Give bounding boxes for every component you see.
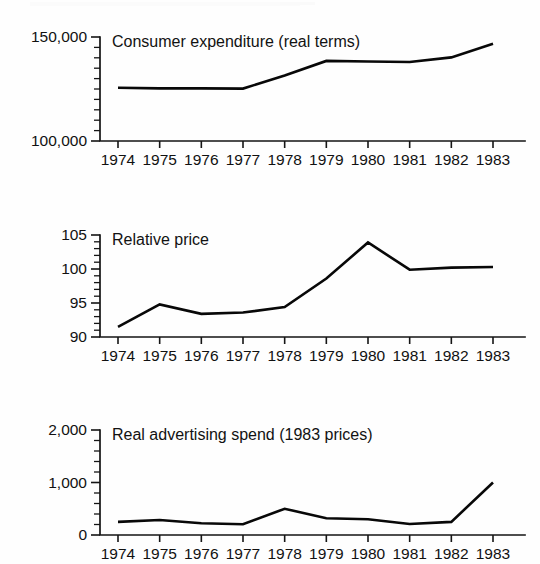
x-axis-tick-label: 1982 [434,347,468,364]
chart-data-line [118,44,493,89]
chart-title: Real advertising spend (1983 prices) [112,426,373,443]
chart-relative-price: 1051009590197419751976197719781979198019… [0,195,540,375]
x-axis-tick-label: 1979 [309,545,343,562]
y-axis-tick-label: 100 [61,260,87,277]
y-axis-tick-label: 105 [61,226,87,243]
x-axis-tick-label: 1980 [351,151,386,168]
x-axis-tick-label: 1977 [226,151,260,168]
chart-title: Relative price [112,231,209,248]
chart-data-line [118,242,493,326]
x-axis-tick-label: 1982 [434,151,468,168]
y-axis-tick-label: 150,000 [31,28,87,45]
x-axis-tick-label: 1981 [392,347,426,364]
y-axis-tick-label: 0 [78,526,87,543]
x-axis-tick-label: 1980 [351,347,386,364]
x-axis-tick-label: 1977 [226,545,260,562]
x-axis-tick-label: 1979 [309,347,343,364]
x-axis-tick-label: 1976 [184,347,218,364]
y-axis-tick-label: 90 [70,328,88,345]
y-axis-tick-label: 100,000 [31,132,87,149]
chart-axes [100,235,525,337]
chart-consumer-expenditure: 150,000100,00019741975197619771978197919… [0,0,540,190]
x-axis-tick-label: 1975 [142,151,176,168]
x-axis-tick-label: 1980 [351,545,386,562]
chart-data-line [118,483,493,525]
chart-panel-relative-price: 1051009590197419751976197719781979198019… [0,195,540,375]
x-axis-tick-label: 1977 [226,347,260,364]
x-axis-tick-label: 1978 [267,347,301,364]
chart-title: Consumer expenditure (real terms) [112,33,360,50]
chart-panel-advertising-spend: 2,0001,000019741975197619771978197919801… [0,390,540,564]
x-axis-tick-label: 1981 [392,545,426,562]
x-axis-tick-label: 1982 [434,545,468,562]
y-axis-tick-label: 2,000 [48,421,87,438]
chart-panel-consumer-expenditure: 150,000100,00019741975197619771978197919… [0,0,540,190]
x-axis-tick-label: 1981 [392,151,426,168]
x-axis-tick-label: 1983 [476,151,510,168]
y-axis-tick-label: 1,000 [48,474,87,491]
x-axis-tick-label: 1974 [101,347,136,364]
x-axis-tick-label: 1983 [476,545,510,562]
x-axis-tick-label: 1975 [142,545,176,562]
x-axis-tick-label: 1974 [101,545,136,562]
chart-advertising-spend: 2,0001,000019741975197619771978197919801… [0,390,540,564]
x-axis-tick-label: 1976 [184,151,218,168]
figure-page: 150,000100,00019741975197619771978197919… [0,0,540,564]
x-axis-tick-label: 1983 [476,347,510,364]
x-axis-tick-label: 1978 [267,545,301,562]
y-axis-tick-label: 95 [70,294,87,311]
x-axis-tick-label: 1976 [184,545,218,562]
x-axis-tick-label: 1979 [309,151,343,168]
x-axis-tick-label: 1978 [267,151,301,168]
x-axis-tick-label: 1975 [142,347,176,364]
x-axis-tick-label: 1974 [101,151,136,168]
